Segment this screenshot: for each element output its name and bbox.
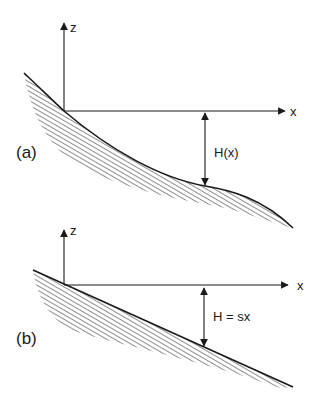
diagram: z x H(x) (a) z x H = sx (b) [0,0,322,420]
depth-label-b: H = sx [213,309,251,324]
panel-label-b: (b) [16,329,37,348]
depth-label-a: H(x) [214,145,239,160]
z-label-a: z [70,20,77,35]
x-label-a: x [290,104,297,119]
panel-a: z x H(x) (a) [16,20,297,228]
panel-label-a: (a) [16,143,37,162]
panel-b: z x H = sx (b) [16,223,304,388]
z-label-b: z [70,223,77,238]
x-label-b: x [297,278,304,293]
